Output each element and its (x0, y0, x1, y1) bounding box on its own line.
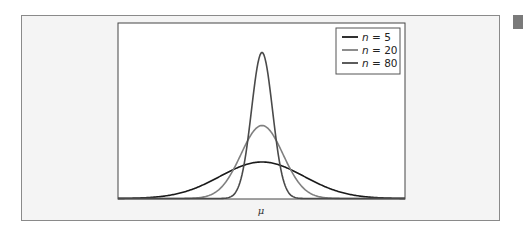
legend: n = 5n = 20n = 80 (336, 28, 400, 74)
legend-label: n = 20 (362, 44, 398, 56)
density-chart: n = 5n = 20n = 80 μ (0, 0, 523, 232)
x-axis-label: μ (258, 205, 265, 216)
legend-label: n = 80 (362, 57, 398, 69)
legend-label: n = 5 (362, 31, 391, 43)
